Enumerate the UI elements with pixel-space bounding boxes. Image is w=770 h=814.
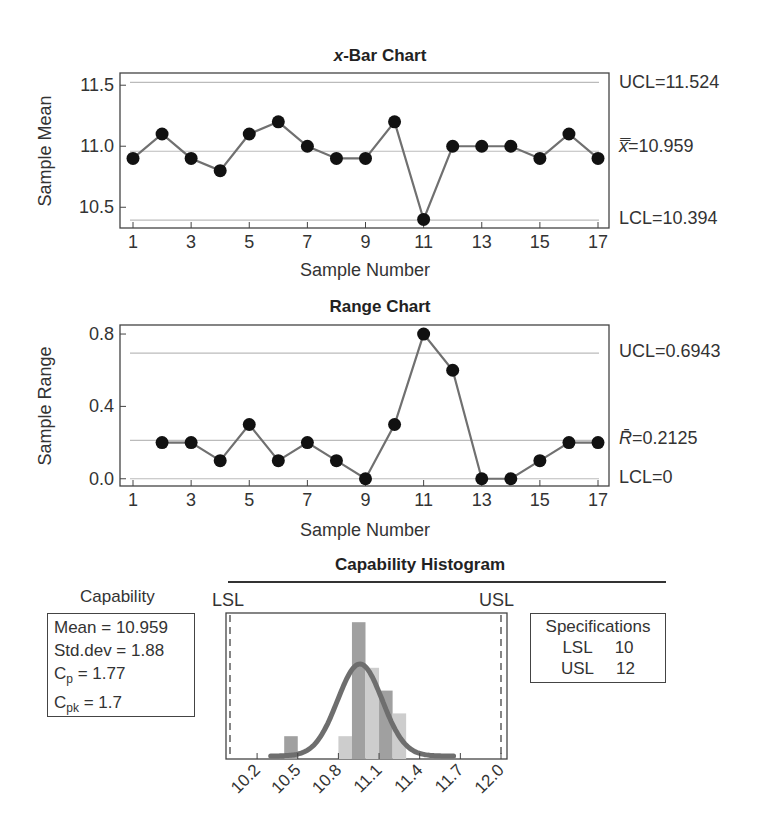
spec-lsl-row: LSL10: [531, 637, 665, 658]
spec-lsl-label: LSL: [562, 637, 592, 658]
hist-x-tick-label: 10.2: [227, 760, 264, 797]
capability-histogram: 10.210.510.811.111.411.712.0: [0, 0, 770, 814]
spec-title: Specifications: [531, 616, 665, 637]
specifications-box: Specifications LSL10 USL12: [530, 613, 666, 683]
spec-usl-row: USL12: [531, 658, 665, 679]
hist-x-tick-label: 11.4: [391, 760, 427, 796]
hist-x-tick-label: 11.7: [431, 760, 467, 796]
histogram-bar: [338, 736, 352, 759]
hist-x-tick-label: 11.1: [350, 760, 386, 796]
spec-usl-label: USL: [561, 658, 594, 679]
histogram-bar: [352, 622, 366, 759]
spec-lsl-value: 10: [615, 637, 634, 658]
spec-usl-value: 12: [616, 658, 635, 679]
hist-x-tick-label: 10.5: [268, 760, 305, 797]
hist-x-tick-label: 10.8: [308, 760, 345, 797]
hist-x-tick-label: 12.0: [471, 760, 508, 797]
